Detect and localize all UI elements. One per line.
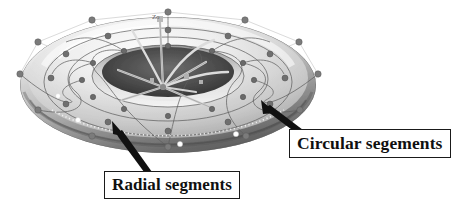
callout-radial-label: Radial segments: [112, 175, 232, 195]
axis-origin-node: [160, 84, 166, 90]
callout-radial-segments: Radial segments: [104, 171, 240, 199]
z-axis-label: Zo: [152, 13, 159, 21]
callout-circular-label: Circular segements: [297, 133, 443, 154]
callout-circular-segments: Circular segements: [289, 129, 451, 158]
